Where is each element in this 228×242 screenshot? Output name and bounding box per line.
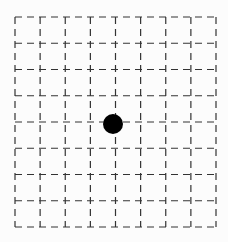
grid-diagram — [0, 0, 228, 242]
center-point-marker — [103, 114, 123, 134]
grid-canvas — [0, 0, 228, 242]
